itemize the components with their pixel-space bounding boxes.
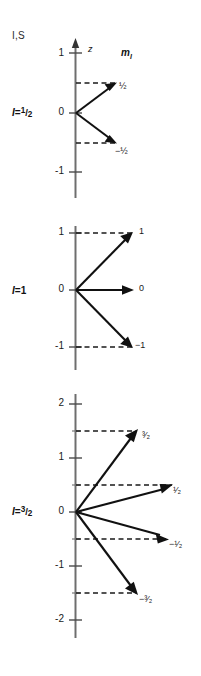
panel-3-plot xyxy=(0,390,201,650)
vector-panel2-zero xyxy=(76,285,134,295)
vector-panel3-3half xyxy=(76,429,138,512)
panel-2-plot xyxy=(0,218,201,378)
vector-panel1-down xyxy=(76,113,117,144)
vector-panel3-neg3half xyxy=(76,512,138,595)
panel-1-plot xyxy=(0,20,201,220)
vector-panel2-down xyxy=(76,290,133,348)
vector-panel1-up xyxy=(76,83,117,114)
vector-panel2-up xyxy=(76,232,133,290)
z-axis-arrowhead-panel-1 xyxy=(72,38,79,48)
vector-panel3-1half xyxy=(76,484,173,512)
spin-vector-diagram: I,S I=1/2 z mI 1 0 -1 ½ −½ I=1 xyxy=(0,0,201,676)
